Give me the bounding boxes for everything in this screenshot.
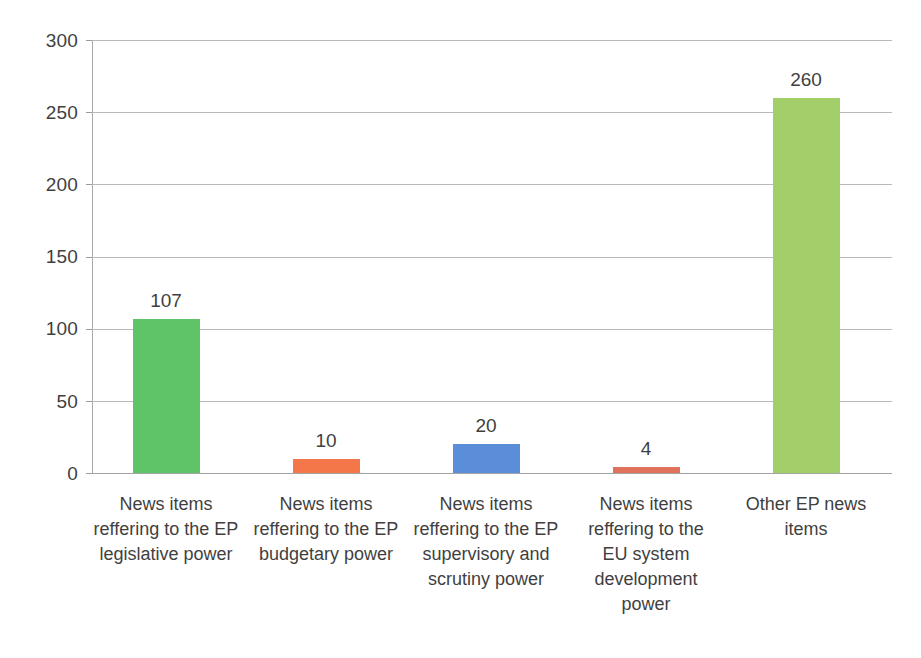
y-tick-label-150: 150 [0, 247, 78, 266]
y-tick-label-50: 50 [0, 392, 78, 411]
bar-supervisory-scrutiny-power[interactable] [453, 444, 520, 473]
x-tick-label-eu-system-development-power: News items reffering to the EU system de… [566, 492, 726, 617]
y-axis: 300 250 200 150 100 50 0 [0, 0, 78, 658]
x-tick-label-line: supervisory and [406, 542, 566, 567]
gridline-baseline-0 [92, 473, 892, 474]
x-tick-label-line: reffering to the EP [246, 517, 406, 542]
x-tick-label-line: reffering to the EP [86, 517, 246, 542]
x-tick-label-line: News items [406, 492, 566, 517]
bar-budgetary-power[interactable] [293, 459, 360, 473]
x-tick-label-line: News items [566, 492, 726, 517]
x-tick-label-line: scrutiny power [406, 567, 566, 592]
x-tick-label-line: News items [246, 492, 406, 517]
y-tick-label-0: 0 [0, 464, 78, 483]
bar-value-other-ep-news-items: 260 [756, 70, 856, 89]
x-tick-label-line: reffering to the [566, 517, 726, 542]
bar-value-eu-system-development-power: 4 [596, 439, 696, 458]
bars-layer: 107 10 20 4 260 [92, 40, 892, 473]
x-tick-label-legislative-power: News items reffering to the EP legislati… [86, 492, 246, 567]
bar-chart: 300 250 200 150 100 50 0 107 10 20 [0, 0, 921, 658]
x-tick-label-line: power [566, 592, 726, 617]
y-tick-label-100: 100 [0, 319, 78, 338]
y-tick-label-200: 200 [0, 175, 78, 194]
plot-area: 107 10 20 4 260 [92, 40, 892, 473]
bar-value-budgetary-power: 10 [276, 431, 376, 450]
x-tick-label-line: legislative power [86, 542, 246, 567]
x-tick-label-line: EU system [566, 542, 726, 567]
y-tick-label-250: 250 [0, 103, 78, 122]
x-axis: News items reffering to the EP legislati… [92, 492, 892, 642]
x-tick-label-line: Other EP news [726, 492, 886, 517]
x-tick-label-supervisory-scrutiny-power: News items reffering to the EP superviso… [406, 492, 566, 592]
x-tick-label-line: News items [86, 492, 246, 517]
x-tick-label-line: budgetary power [246, 542, 406, 567]
x-tick-label-line: reffering to the EP [406, 517, 566, 542]
x-tick-label-line: development [566, 567, 726, 592]
bar-legislative-power[interactable] [133, 319, 200, 473]
x-tick-label-other-ep-news-items: Other EP news items [726, 492, 886, 542]
bar-value-supervisory-scrutiny-power: 20 [436, 416, 536, 435]
x-tick-label-line: items [726, 517, 886, 542]
bar-other-ep-news-items[interactable] [773, 98, 840, 473]
bar-eu-system-development-power[interactable] [613, 467, 680, 473]
bar-value-legislative-power: 107 [116, 291, 216, 310]
y-tick-label-300: 300 [0, 31, 78, 50]
x-tick-label-budgetary-power: News items reffering to the EP budgetary… [246, 492, 406, 567]
